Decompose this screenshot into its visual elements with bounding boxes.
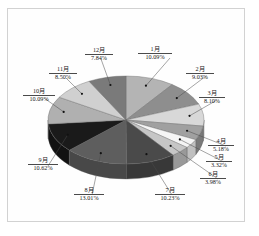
pie-label-sep-name: 9月: [28, 157, 58, 164]
pie-label-aug-percent: 13.01%: [74, 194, 104, 202]
pie-label-sep-percent: 10.62%: [28, 164, 58, 172]
leader-dot-4月: [186, 130, 188, 132]
pie-label-jun-percent: 3.98%: [200, 178, 226, 186]
pie-label-apr: 4月 5.18%: [208, 138, 234, 153]
leader-dot-2月: [176, 97, 178, 99]
pie-label-dec-name: 12月: [85, 47, 113, 54]
leader-dot-1月: [145, 85, 147, 87]
pie-label-jan-percent: 10.09%: [138, 53, 172, 61]
pie-top-face: [48, 76, 204, 164]
leader-dot-10月: [63, 111, 65, 113]
leader-dot-8月: [100, 152, 102, 154]
pie-label-may: 5月 3.32%: [206, 154, 232, 169]
pie-label-jan: 1月 10.09%: [138, 46, 172, 61]
leader-dot-5月: [179, 138, 181, 140]
pie-label-jun-name: 6月: [200, 171, 226, 178]
pie-label-jul-name: 7月: [155, 187, 185, 194]
leader-dot-6月: [170, 145, 172, 147]
pie-label-nov: 11月 8.50%: [49, 66, 77, 81]
pie-label-nov-name: 11月: [49, 66, 77, 73]
pie-label-oct-percent: 10.09%: [23, 95, 55, 103]
pie-label-jan-name: 1月: [138, 46, 172, 53]
pie-label-mar: 3月 8.10%: [199, 90, 225, 105]
pie-label-sep: 9月 10.62%: [28, 157, 58, 172]
pie-label-mar-percent: 8.10%: [199, 97, 225, 105]
pie-label-apr-name: 4月: [208, 138, 234, 145]
pie-label-jun: 6月 3.98%: [200, 171, 226, 186]
leader-dot-3月: [188, 115, 190, 117]
leader-dot-7月: [145, 153, 147, 155]
pie-chart-figure: 1月 10.09% 2月 9.03% 3月 8.10% 4月 5.18% 5月 …: [0, 0, 259, 236]
pie-label-apr-percent: 5.18%: [208, 145, 234, 153]
pie-label-dec: 12月 7.84%: [85, 47, 113, 62]
pie-label-oct: 10月 10.09%: [23, 88, 55, 103]
pie-label-jul-percent: 10.23%: [155, 194, 185, 202]
pie-label-aug: 8月 13.01%: [74, 187, 104, 202]
pie-label-feb-percent: 9.03%: [186, 73, 214, 81]
pie-label-nov-percent: 8.50%: [49, 73, 77, 81]
pie-label-feb-name: 2月: [186, 66, 214, 73]
pie-label-may-percent: 3.32%: [206, 161, 232, 169]
leader-dot-11月: [81, 93, 83, 95]
pie-label-aug-name: 8月: [74, 187, 104, 194]
pie-label-feb: 2月 9.03%: [186, 66, 214, 81]
pie-label-may-name: 5月: [206, 154, 232, 161]
pie-label-dec-percent: 7.84%: [85, 54, 113, 62]
leader-dot-9月: [67, 134, 69, 136]
pie-label-oct-name: 10月: [23, 88, 55, 95]
leader-dot-12月: [109, 84, 111, 86]
pie-label-mar-name: 3月: [199, 90, 225, 97]
pie-chart-canvas: [0, 0, 259, 236]
pie-label-jul: 7月 10.23%: [155, 187, 185, 202]
